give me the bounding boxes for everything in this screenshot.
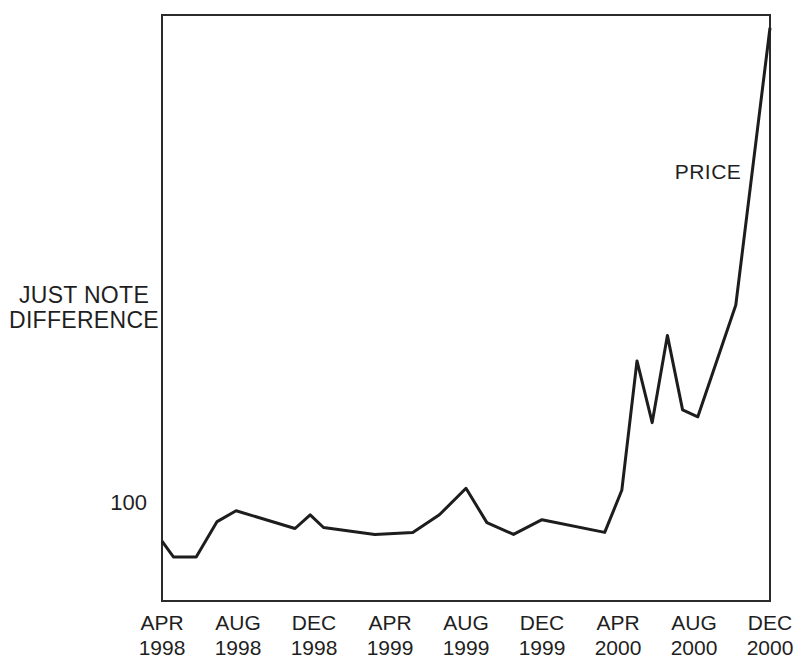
x-axis-labels: APR1998AUG1998DEC1998APR1999AUG1999DEC19… xyxy=(0,610,810,666)
y-tick-label-100: 100 xyxy=(60,492,147,514)
y-axis-label-line2: DIFFERENCE xyxy=(4,308,164,333)
x-tick-year: 2000 xyxy=(722,635,810,660)
series-label-price: PRICE xyxy=(658,160,758,183)
x-tick-month: DEC xyxy=(722,610,810,635)
x-tick-label: DEC2000 xyxy=(722,610,810,660)
y-axis-label: JUST NOTE DIFFERENCE xyxy=(4,283,164,333)
price-line xyxy=(162,28,770,557)
chart-canvas xyxy=(0,0,810,671)
plot-border xyxy=(162,15,770,601)
figure: JUST NOTE DIFFERENCE 100 PRICE APR1998AU… xyxy=(0,0,810,671)
y-axis-label-line1: JUST NOTE xyxy=(4,283,164,308)
